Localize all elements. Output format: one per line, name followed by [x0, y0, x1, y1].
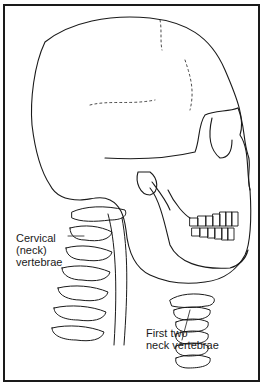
first-two-neck-vertebrae-label: First two neck vertebrae: [146, 327, 219, 351]
cranium-outline: [32, 17, 251, 283]
teeth: [190, 212, 238, 240]
cervical-spine: [52, 207, 127, 345]
skull-spine-illustration: [0, 0, 265, 386]
cervical-vertebrae-label: Cervical (neck) vertebrae: [16, 232, 62, 268]
